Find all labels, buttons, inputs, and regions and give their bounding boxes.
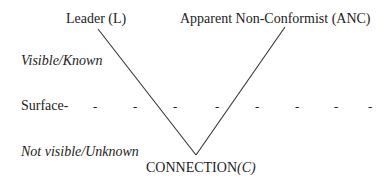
surface-dash: - (368, 100, 372, 114)
surface-dash: - (133, 100, 137, 114)
surface-dash: - (215, 100, 219, 114)
surface-label: Surface- (21, 98, 68, 114)
not-visible-unknown-label: Not visible/Unknown (21, 144, 139, 160)
connection-symbol: (C) (237, 160, 256, 175)
leader-label: Leader (L) (66, 11, 126, 27)
connection-text: CONNECTION (146, 160, 237, 175)
surface-dash: - (334, 100, 338, 114)
leader-to-connection-line (98, 29, 196, 155)
anc-label: Apparent Non-Conformist (ANC) (180, 11, 371, 27)
surface-dash: - (93, 100, 97, 114)
surface-dash: - (173, 100, 177, 114)
anc-to-connection-line (196, 27, 285, 155)
visible-known-label: Visible/Known (21, 53, 102, 69)
surface-dash: - (255, 100, 259, 114)
connection-label: CONNECTION(C) (146, 160, 256, 176)
surface-dash: - (295, 100, 299, 114)
